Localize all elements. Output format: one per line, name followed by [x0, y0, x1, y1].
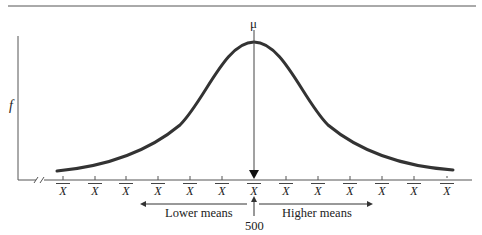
- right-arrowhead-icon: [367, 201, 373, 207]
- normal-curve: [57, 42, 453, 171]
- x-tick-label: X: [183, 183, 197, 198]
- x-tick-label: X: [247, 183, 261, 198]
- x-tick-label: X: [311, 183, 325, 198]
- x-tick-label: X: [440, 183, 454, 198]
- x-tick-label: X: [215, 183, 229, 198]
- x-tick-label: X: [375, 183, 389, 198]
- y-axis-label: f: [9, 98, 13, 114]
- x-tick-label: X: [151, 183, 165, 198]
- left-arrowhead-icon: [140, 201, 146, 207]
- mean-label: μ: [250, 16, 257, 32]
- center-value-label: 500: [245, 219, 264, 234]
- lower-means-label: Lower means: [165, 206, 233, 221]
- x-tick-label: X: [407, 183, 421, 198]
- x-tick-label: X: [88, 183, 102, 198]
- higher-means-label: Higher means: [282, 206, 352, 221]
- x-tick-label: X: [56, 183, 70, 198]
- x-tick-label: X: [279, 183, 293, 198]
- x-tick-label: X: [119, 183, 133, 198]
- mean-arrowhead-icon: [249, 170, 259, 179]
- axis-break-icon: [40, 177, 44, 183]
- diagram-canvas: [0, 0, 482, 235]
- x-tick-label: X: [343, 183, 357, 198]
